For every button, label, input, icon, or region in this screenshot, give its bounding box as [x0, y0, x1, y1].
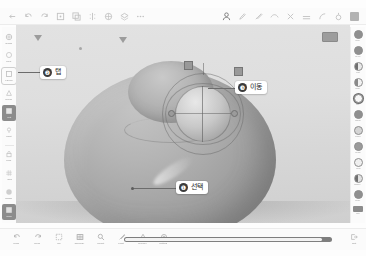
sidebar-item-material[interactable]: Mat — [2, 105, 16, 121]
layers-icon[interactable] — [120, 12, 129, 21]
sidebar-item-label: Lock — [6, 159, 11, 162]
brush-swatch-label: Trim — [356, 167, 360, 170]
sidebar-item-grid[interactable]: Grid — [2, 167, 16, 183]
brush-swatch-icon — [354, 110, 363, 119]
brush-swatch-label: Std — [356, 212, 359, 215]
brush-swatch-12[interactable]: Std — [351, 206, 365, 221]
back-icon[interactable] — [8, 12, 17, 21]
bottom-item-select[interactable]: Sel — [51, 233, 66, 245]
sidebar-item-layers[interactable]: Layers — [2, 68, 16, 84]
callout-label: 탭 — [55, 68, 61, 77]
brush-swatch-11[interactable]: Tube — [351, 190, 365, 205]
bottom-item-label: Sel — [57, 243, 61, 246]
bottom-item-undo[interactable]: Undo — [9, 233, 24, 245]
brush-swatch-8[interactable]: Mask — [351, 142, 365, 157]
primitive-icon — [5, 51, 13, 59]
brush-swatch-10[interactable]: Snake — [351, 174, 365, 189]
gizmo-handle-square-a[interactable] — [184, 61, 193, 70]
sidebar-item-label: Mat — [7, 116, 11, 119]
callout-number: ❶ — [179, 183, 188, 192]
bottom-item-label: Paint — [119, 243, 125, 246]
bottom-toolbar: Undo Redo Sel Topology — [0, 228, 366, 250]
bottom-item-label: Setting — [160, 243, 168, 246]
brush-swatch-icon — [354, 78, 363, 87]
leader-line-move — [208, 88, 237, 89]
brush-swatch-icon — [354, 158, 363, 167]
brush-swatch-icon — [354, 142, 363, 151]
sidebar-item-shade[interactable]: Shade — [2, 186, 16, 202]
bottom-item-sculpt[interactable]: Sculpt — [93, 233, 108, 245]
brush-swatch-5[interactable]: Infl — [351, 94, 365, 109]
gizmo-handle-square-b[interactable] — [234, 67, 243, 76]
brush-swatch-7[interactable]: Pnch — [351, 126, 365, 141]
sidebar-item-label: Shade — [6, 197, 13, 200]
gizmo-equator-line — [175, 113, 231, 114]
brush-swatch-icon — [354, 46, 363, 55]
redo-icon[interactable] — [40, 12, 49, 21]
bottom-item-label: Topology — [75, 243, 85, 246]
gizmo-sphere[interactable] — [175, 86, 231, 142]
settings-icon[interactable] — [350, 12, 359, 21]
shade-icon — [5, 188, 13, 196]
undo-icon[interactable] — [24, 12, 33, 21]
brush-swatch-label: Clay — [356, 39, 361, 42]
brush-swatch-label: Mask — [355, 151, 360, 154]
brush-icon[interactable] — [254, 12, 263, 21]
marker-triangle-right — [119, 37, 127, 43]
select-icon — [55, 233, 63, 241]
inflate-icon[interactable] — [334, 12, 343, 21]
transform-icon[interactable] — [56, 12, 65, 21]
merge-icon — [5, 89, 13, 97]
more-icon[interactable] — [136, 12, 145, 21]
gizmo-handle-left[interactable] — [168, 110, 175, 117]
duplicate-icon[interactable] — [72, 12, 81, 21]
flatten-icon[interactable] — [302, 12, 311, 21]
sidebar-item-light[interactable]: Light — [2, 124, 16, 140]
sculpt-icon — [97, 233, 105, 241]
bottom-item-topology[interactable]: Topology — [72, 233, 87, 245]
mask-icon[interactable] — [222, 12, 231, 21]
marker-dot — [79, 47, 82, 50]
bottom-item-label: Render — [138, 243, 146, 246]
smooth-icon[interactable] — [270, 12, 279, 21]
sidebar-item-color[interactable]: Color — [2, 204, 16, 220]
brush-swatch-label: Tube — [355, 199, 360, 202]
sidebar-item-primitive[interactable]: Prim — [2, 50, 16, 66]
brush-swatch-9[interactable]: Trim — [351, 158, 365, 173]
bottom-item-redo[interactable]: Redo — [30, 233, 45, 245]
brush-size-slider[interactable] — [124, 237, 332, 242]
brush-swatch-label: Crse — [356, 87, 361, 90]
brush-swatch-2[interactable]: Move — [351, 46, 365, 61]
redo-icon — [34, 233, 42, 241]
color-icon — [5, 206, 13, 214]
sidebar-item-gizmo[interactable]: Gizmo — [2, 31, 16, 47]
brush-swatch-4[interactable]: Crse — [351, 78, 365, 93]
transform-gizmo[interactable] — [162, 73, 244, 155]
bottom-item-exit[interactable]: Exit — [350, 233, 366, 245]
brush-swatch-label: Infl — [356, 103, 359, 106]
brush-swatch-label: Snake — [355, 183, 361, 186]
sidebar-item-label: Color — [6, 215, 12, 218]
brush-swatch-1[interactable]: Clay — [351, 30, 365, 45]
brush-swatch-icon — [354, 94, 363, 103]
mirror-icon[interactable] — [88, 12, 97, 21]
crease-icon[interactable] — [318, 12, 327, 21]
brush-swatch-label: Flat — [356, 71, 360, 74]
brush-swatch-label: Smth — [355, 119, 360, 122]
brush-swatch-3[interactable]: Flat — [351, 62, 365, 77]
material-icon — [5, 107, 13, 115]
subdivide-icon[interactable] — [104, 12, 113, 21]
top-toolbar-right-group — [222, 12, 366, 21]
lock-icon — [5, 150, 13, 158]
bottom-item-label: Redo — [35, 243, 41, 246]
sidebar-item-lock[interactable]: Lock — [2, 149, 16, 165]
view-cube[interactable] — [322, 32, 338, 42]
sidebar-item-label: Layers — [5, 79, 12, 82]
brush-swatch-icon — [354, 190, 363, 199]
gizmo-handle-right[interactable] — [231, 110, 238, 117]
sidebar-item-merge[interactable]: Merge — [2, 87, 16, 103]
pinch-icon[interactable] — [286, 12, 295, 21]
brush-swatch-6[interactable]: Smth — [351, 110, 365, 125]
sidebar-item-label: Merge — [6, 98, 13, 101]
pen-icon[interactable] — [238, 12, 247, 21]
